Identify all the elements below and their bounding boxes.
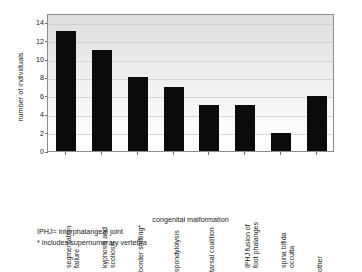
y-tick-label: 2 [30,130,44,138]
x-tick-mark [65,152,66,155]
x-axis-title: congenital malformation [47,215,334,224]
gridline [48,24,333,25]
x-tick-mark [316,152,317,155]
bar [128,77,148,151]
gridline [48,42,333,43]
x-tick-mark [208,152,209,155]
y-tick-label: 0 [30,148,44,156]
gridline [48,97,333,98]
x-tick-mark [137,152,138,155]
y-axis-title: number of individuals [14,26,27,148]
footnote-asterisk: * includes supernumerary vertebra [37,238,147,249]
gridline [48,116,333,117]
y-axis-ticks: 02468101214 [28,14,44,152]
x-axis-tick-labels: segmentationfailurekyphosis andscoliosis… [47,152,334,214]
y-tick-label: 8 [30,74,44,82]
y-tick-label: 10 [30,56,44,64]
bar [307,96,327,151]
y-tick-label: 4 [30,111,44,119]
x-tick-mark [101,152,102,155]
gridline [48,61,333,62]
y-tick-label: 6 [30,93,44,101]
gridline [48,79,333,80]
bar [56,31,76,151]
y-tick-label: 14 [30,19,44,27]
x-tick-mark [173,152,174,155]
bar [271,133,291,151]
bar [164,87,184,151]
bar [199,105,219,151]
x-tick-mark [244,152,245,155]
y-tick-label: 12 [30,38,44,46]
bar [235,105,255,151]
footnote-iphj: IPHJ= interphalangeal joint [37,227,147,238]
bar [92,50,112,151]
x-tick-mark [280,152,281,155]
plot-area [47,14,334,152]
footnotes: IPHJ= interphalangeal joint * includes s… [37,227,147,248]
